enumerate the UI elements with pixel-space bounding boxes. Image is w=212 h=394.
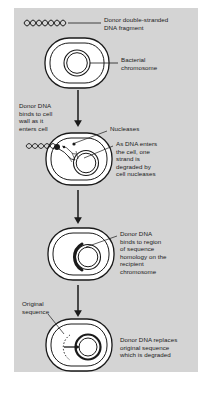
label-binds-cell-wall: Donor DNA binds to cell wall as it enter… xyxy=(19,102,81,132)
label-replacement: Donor DNA replaces original sequence whi… xyxy=(120,336,208,359)
transformation-diagram: Donor double-stranded DNA fragment Bacte… xyxy=(0,0,212,394)
step-3-bacterial-cell xyxy=(48,228,114,280)
label-homology-binding: Donor DNA binds to region of sequence ho… xyxy=(120,230,206,276)
step-4-bacterial-cell xyxy=(46,319,112,371)
label-nucleases: Nucleases xyxy=(110,125,182,133)
label-original-sequence: Original sequence xyxy=(22,300,78,315)
step-1-chromosome-inner xyxy=(67,53,88,74)
label-strand-degraded: As DNA enters the cell, one strand is de… xyxy=(116,140,208,178)
step-2-bacterial-cell xyxy=(46,133,112,185)
label-bacterial-chromosome: Bacterial chromosome xyxy=(121,56,203,71)
step-4-chromosome-inner xyxy=(79,338,97,356)
label-donor-fragment: Donor double-stranded DNA fragment xyxy=(104,16,204,31)
step-2-nuclease-dot-2 xyxy=(63,146,65,148)
step-1-donor-dna-squiggle xyxy=(24,20,66,26)
